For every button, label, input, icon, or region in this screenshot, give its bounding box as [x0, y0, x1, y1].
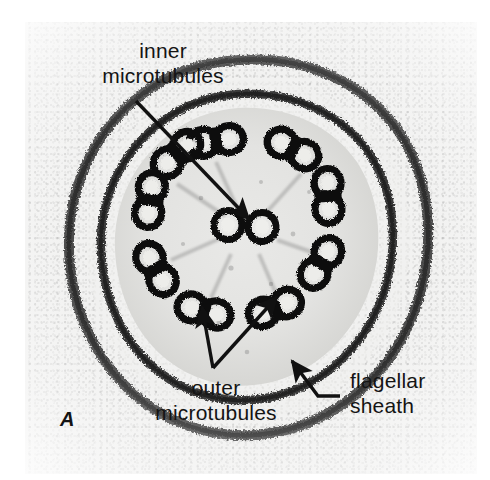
- label-inner-microtubules-line2: microtubules: [78, 63, 248, 88]
- label-inner-microtubules: inner microtubules: [78, 38, 248, 88]
- figure-panel: inner microtubules outer microtubules fl…: [0, 0, 490, 480]
- label-flagellar-sheath: flagellar sheath: [350, 368, 425, 418]
- label-outer-microtubules-line1: outer: [141, 375, 291, 400]
- label-flagellar-sheath-line2: sheath: [350, 393, 425, 418]
- label-inner-microtubules-line1: inner: [78, 38, 248, 63]
- label-flagellar-sheath-line1: flagellar: [350, 368, 425, 393]
- label-outer-microtubules-line2: microtubules: [141, 400, 291, 425]
- label-outer-microtubules: outer microtubules: [141, 375, 291, 425]
- panel-letter: A: [60, 408, 74, 431]
